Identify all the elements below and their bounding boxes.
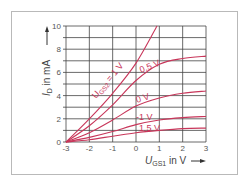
y-tick-label: 2 <box>57 115 62 124</box>
x-tick-label: 0 <box>134 144 139 153</box>
x-tick-label: 3 <box>204 144 209 153</box>
y-tick-label: 4 <box>57 92 62 101</box>
y-tick-label: 8 <box>57 45 62 54</box>
x-tick-label: -1 <box>109 144 117 153</box>
x-tick-label: 1 <box>157 144 162 153</box>
x-tick-label: -2 <box>86 144 94 153</box>
x-axis-arrow-icon <box>191 159 206 163</box>
curve-label-0v: 0 V <box>135 91 151 105</box>
x-tick-label: -3 <box>62 144 70 153</box>
drain-current-chart: 0246810-3-2-10123 ID in mA UGS1 in V UGS… <box>0 0 242 186</box>
y-axis-label: ID in mA <box>41 60 53 97</box>
curve-label-ugs2-1v: UGS2 = 1 V <box>90 61 126 101</box>
x-tick-label: 2 <box>180 144 185 153</box>
curve-label-minus-1-5v: 1,5 V <box>139 123 160 133</box>
x-axis-label: UGS1 in V <box>145 155 187 167</box>
y-tick-label: 6 <box>57 68 62 77</box>
y-tick-label: 10 <box>52 22 61 31</box>
y-tick-label: 0 <box>57 138 62 147</box>
curve-label-minus-1v: -1 V <box>136 112 153 122</box>
svg-text:UGS2 = 1 V: UGS2 = 1 V <box>90 61 126 101</box>
svg-text:ID in mA: ID in mA <box>41 60 53 97</box>
y-axis-arrow-icon <box>45 26 49 45</box>
